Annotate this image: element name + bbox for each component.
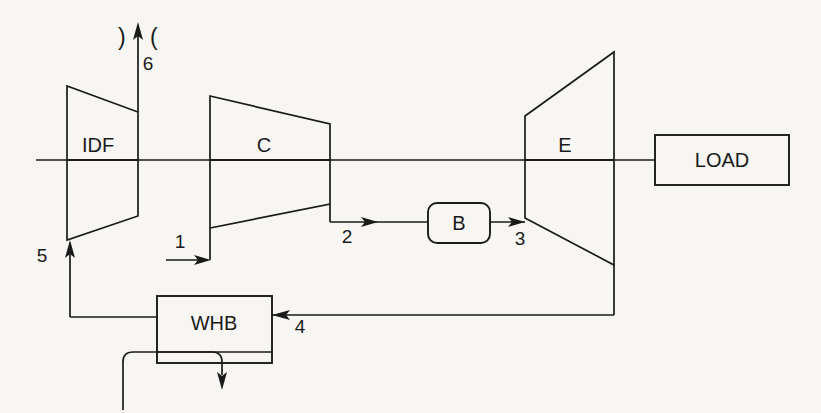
- state-point-5-label: 5: [37, 245, 48, 266]
- burner-label: B: [452, 212, 465, 234]
- whb-label: WHB: [191, 312, 238, 334]
- compressor-label: C: [257, 134, 271, 156]
- idf-lower-body: [67, 160, 138, 240]
- load-label: LOAD: [695, 149, 749, 171]
- diagram-canvas: ) ( IDF C E B WHB LOAD 1 2 3 4 5 6: [0, 0, 821, 413]
- stack-right-bracket: (: [150, 24, 158, 50]
- expander-label: E: [558, 134, 571, 156]
- state-point-2-label: 2: [342, 226, 353, 247]
- compressor-lower-body: [210, 160, 330, 228]
- expander-lower-body: [525, 160, 614, 265]
- state-point-1-label: 1: [175, 231, 186, 252]
- stack-left-bracket: ): [118, 24, 126, 50]
- idf-label: IDF: [82, 134, 114, 156]
- process-flow-diagram: ) ( IDF C E B WHB LOAD 1 2 3 4 5 6: [0, 0, 821, 413]
- state-point-6-label: 6: [143, 53, 154, 74]
- whb-water-steam-tube: [123, 352, 222, 410]
- state-point-4-label: 4: [295, 316, 306, 337]
- state-point-3-label: 3: [515, 228, 526, 249]
